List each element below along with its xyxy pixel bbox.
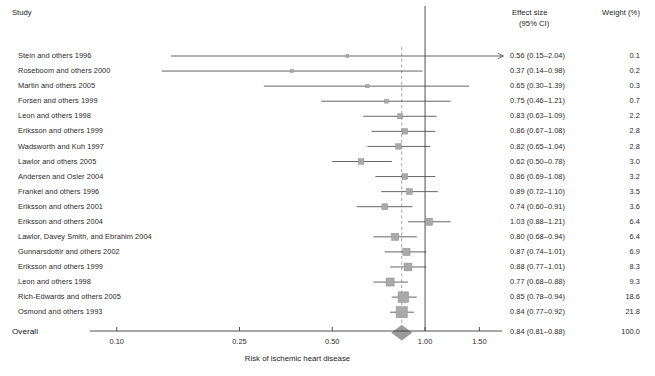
weight-value: 8.3 <box>594 263 640 270</box>
study-name: Martin and others 2005 <box>18 82 95 89</box>
weight-value: 3.2 <box>594 173 640 180</box>
effect-size-value: 0.75 (0.46–1.21) <box>510 97 565 104</box>
study-name: Gunnarsdottir and others 2002 <box>18 248 120 255</box>
overall-label: Overall <box>12 328 38 336</box>
effect-size-value: 0.88 (0.77–1.01) <box>510 263 565 270</box>
forest-row-marker <box>408 218 451 225</box>
forest-plot: Study Effect size (95% CI) Weight (%) St… <box>0 0 655 376</box>
study-name: Rich-Edwards and others 2005 <box>18 293 121 300</box>
effect-size-marker <box>358 159 364 165</box>
effect-size-value: 0.74 (0.60–0.91) <box>510 203 565 210</box>
weight-value: 0.2 <box>594 67 640 74</box>
effect-size-value: 0.80 (0.68–0.94) <box>510 233 565 240</box>
study-name: Andersen and Osler 2004 <box>18 173 103 180</box>
effect-size-marker <box>386 278 394 286</box>
effect-size-marker <box>404 263 412 271</box>
effect-size-value: 0.84 (0.77–0.92) <box>510 308 565 315</box>
forest-row-marker <box>390 307 414 318</box>
effect-size-value: 0.86 (0.69–1.08) <box>510 173 565 180</box>
forest-row-marker <box>332 159 392 165</box>
study-name: Eriksson and others 2001 <box>18 203 103 210</box>
effect-size-value: 0.82 (0.65–1.04) <box>510 143 565 150</box>
effect-size-value: 0.87 (0.74–1.01) <box>510 248 565 255</box>
x-axis-tick-label: 0.10 <box>97 337 137 346</box>
effect-size-marker <box>403 248 410 255</box>
effect-size-marker <box>382 204 388 210</box>
weight-value: 0.3 <box>594 82 640 89</box>
forest-row-marker <box>363 114 436 119</box>
forest-row-marker <box>357 204 413 210</box>
effect-size-marker <box>366 85 369 88</box>
effect-size-marker <box>398 292 409 303</box>
weight-value: 2.8 <box>594 127 640 134</box>
study-name: Eriksson and others 1999 <box>18 263 103 270</box>
study-name: Eriksson and others 1999 <box>18 127 103 134</box>
study-name: Leon and others 1998 <box>18 278 91 285</box>
x-axis-tick-label: 1.00 <box>405 337 445 346</box>
weight-value: 0.7 <box>594 97 640 104</box>
forest-row-marker <box>171 53 503 58</box>
effect-size-marker <box>402 129 407 134</box>
study-name: Lawlor, Davey Smith, and Ebrahim 2004 <box>18 233 152 240</box>
weight-value: 0.1 <box>594 52 640 59</box>
study-name: Eriksson and others 2004 <box>18 218 103 225</box>
forest-row-marker <box>381 189 438 195</box>
effect-size-marker <box>392 233 399 240</box>
study-name: Forsen and others 1999 <box>18 97 98 104</box>
effect-size-marker <box>402 174 408 180</box>
study-name: Leon and others 1998 <box>18 112 91 119</box>
forest-row-marker <box>373 233 416 240</box>
effect-size-value: 0.56 (0.15–2.04) <box>510 52 565 59</box>
weight-value: 6.4 <box>594 233 640 240</box>
study-name: Frankel and others 1996 <box>18 188 99 195</box>
weight-value: 3.6 <box>594 203 640 210</box>
overall-effect-size-value: 0.84 (0.81–0.88) <box>510 328 565 335</box>
study-name: Lawlor and others 2005 <box>18 158 96 165</box>
effect-size-marker <box>407 189 413 195</box>
effect-size-value: 0.86 (0.67–1.08) <box>510 127 565 134</box>
study-name: Osmond and others 1993 <box>18 308 103 315</box>
weight-value: 18.6 <box>594 293 640 300</box>
x-axis-tick-label: 0.50 <box>312 337 352 346</box>
effect-size-value: 1.03 (0.88–1.21) <box>510 218 565 225</box>
forest-row-marker <box>390 263 426 271</box>
effect-size-marker <box>385 99 389 103</box>
study-name: Stein and others 1996 <box>18 52 91 59</box>
effect-size-value: 0.83 (0.63–1.09) <box>510 112 565 119</box>
forest-row-marker <box>264 85 469 88</box>
effect-size-marker <box>425 218 432 225</box>
effect-size-value: 0.89 (0.72–1.10) <box>510 188 565 195</box>
weight-value: 3.5 <box>594 188 640 195</box>
forest-row-marker <box>392 292 417 303</box>
forest-row-marker <box>371 129 435 134</box>
forest-row-marker <box>367 144 430 149</box>
weight-value: 9.3 <box>594 278 640 285</box>
effect-size-marker <box>396 144 401 149</box>
forest-row-marker <box>373 278 408 286</box>
forest-row-marker <box>375 174 435 180</box>
effect-size-value: 0.37 (0.14–0.98) <box>510 67 565 74</box>
effect-size-marker <box>398 114 403 119</box>
forest-row-marker <box>321 99 450 103</box>
effect-size-value: 0.77 (0.68–0.88) <box>510 278 565 285</box>
effect-size-value: 0.62 (0.50–0.78) <box>510 158 565 165</box>
effect-size-value: 0.85 (0.78–0.94) <box>510 293 565 300</box>
weight-value: 6.4 <box>594 218 640 225</box>
forest-row-marker <box>162 70 423 73</box>
study-name: Roseboom and others 2000 <box>18 67 110 74</box>
x-axis-title: Risk of ischemic heart disease <box>148 354 448 363</box>
effect-size-marker <box>290 70 293 73</box>
weight-value: 3.0 <box>594 158 640 165</box>
x-axis-tick-label: 1.50 <box>459 337 499 346</box>
weight-value: 2.8 <box>594 143 640 150</box>
effect-size-value: 0.65 (0.30–1.39) <box>510 82 565 89</box>
effect-size-marker <box>346 55 349 58</box>
weight-value: 21.8 <box>594 308 640 315</box>
study-name: Wadsworth and Kuh 1997 <box>18 143 104 150</box>
weight-value: 2.2 <box>594 112 640 119</box>
effect-size-marker <box>396 307 407 318</box>
x-axis-tick-label: 0.25 <box>219 337 259 346</box>
weight-value: 6.9 <box>594 248 640 255</box>
forest-row-marker <box>385 248 427 255</box>
overall-weight-value: 100.0 <box>594 328 640 335</box>
